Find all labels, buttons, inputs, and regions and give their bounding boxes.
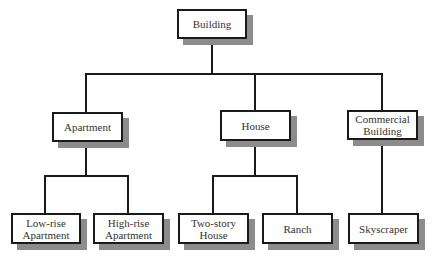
- node-label: Apartment: [64, 121, 111, 133]
- node-box: High-rise Apartment: [93, 213, 164, 244]
- node-label: Low-rise Apartment: [22, 217, 69, 241]
- building-hierarchy-diagram: Building Apartment House Commercial Buil…: [0, 0, 434, 261]
- node-box: Low-rise Apartment: [11, 213, 81, 244]
- node-box: Apartment: [52, 112, 123, 142]
- node-label: Ranch: [283, 223, 311, 235]
- connector-house-bar: [212, 175, 298, 177]
- node-label: Building: [193, 18, 232, 30]
- connector-apartment-drop: [85, 73, 87, 113]
- node-label: Two-story House: [191, 217, 236, 241]
- connector-commercial-stem: [381, 140, 383, 214]
- node-label: Commercial Building: [355, 113, 409, 137]
- node-label: House: [241, 120, 269, 132]
- connector-twostory-drop: [212, 175, 214, 214]
- connector-apartment-bar: [44, 175, 129, 177]
- node-box: Skyscraper: [348, 213, 419, 244]
- node-box: Two-story House: [178, 213, 249, 244]
- connector-ranch-drop: [296, 175, 298, 214]
- node-box: Ranch: [262, 213, 333, 244]
- connector-level1-bar: [85, 73, 383, 75]
- node-box: House: [220, 110, 291, 141]
- connector-commercial-drop: [381, 73, 383, 111]
- connector-highrise-drop: [127, 175, 129, 214]
- connector-house-drop: [254, 73, 256, 111]
- node-label: Skyscraper: [359, 223, 408, 235]
- node-box: Commercial Building: [347, 110, 418, 140]
- connector-lowrise-drop: [44, 175, 46, 214]
- node-label: High-rise Apartment: [105, 217, 152, 241]
- node-box: Building: [177, 9, 247, 39]
